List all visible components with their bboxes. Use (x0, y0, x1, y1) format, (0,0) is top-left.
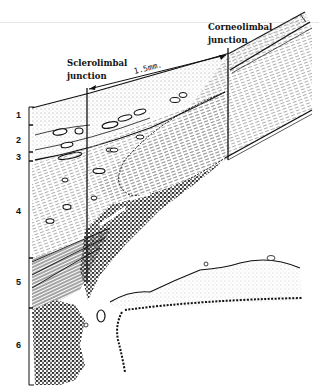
corneolimbal-label-line2: junction (207, 35, 248, 45)
layer-number-2: 2 (16, 135, 21, 145)
layer-number-5: 5 (16, 277, 21, 287)
iris (84, 256, 302, 373)
sclerolimbal-label-line1: Sclerolimbal (67, 58, 128, 68)
layer-number-1: 1 (16, 110, 21, 120)
ciliary-body-pigment (32, 300, 85, 385)
layer-number-3: 3 (16, 152, 21, 162)
sclerolimbal-label-line2: junction (66, 71, 107, 81)
layer-number-6: 6 (16, 340, 21, 350)
limbus-diagram: 1.5mm. Sclerolimbal junction Corneolimba… (0, 0, 319, 391)
corneolimbal-label-line1: Corneolimbal (208, 22, 273, 32)
layer-number-4: 4 (16, 206, 21, 216)
